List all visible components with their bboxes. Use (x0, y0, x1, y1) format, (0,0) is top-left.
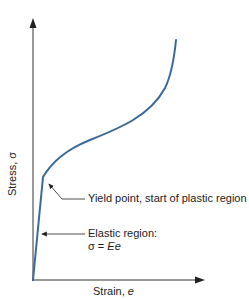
x-axis-arrow-icon (195, 277, 205, 284)
x-axis (32, 277, 205, 284)
formula-variable: Ee (107, 240, 120, 252)
y-axis-arrow-icon (30, 18, 37, 28)
y-axis-label-container: Stress, σ (6, 196, 20, 256)
x-axis-label-text: Strain, (93, 285, 128, 297)
yield-point-annotation: Yield point, start of plastic region (88, 192, 247, 205)
elastic-region-annotation: Elastic region: σ = Ee (88, 227, 157, 253)
x-axis-label: Strain, e (93, 285, 134, 298)
y-axis-label-text: Stress, σ (6, 152, 18, 196)
elastic-region-formula: σ = Ee (88, 240, 157, 253)
stress-strain-diagram (0, 0, 249, 299)
x-axis-label-variable: e (128, 285, 134, 297)
yield-point-leader (49, 184, 85, 199)
elastic-region-title: Elastic region: (88, 227, 157, 240)
y-axis-label: Stress, σ (6, 152, 18, 196)
formula-prefix: σ = (88, 240, 107, 252)
y-axis (30, 18, 37, 281)
